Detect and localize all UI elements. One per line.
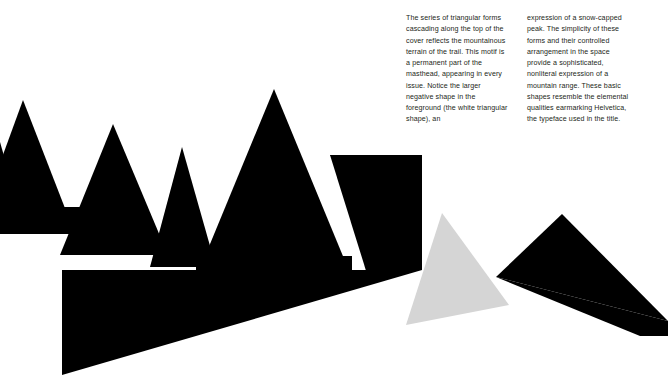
caption-text-right: expression of a snow-capped peak. The si… xyxy=(527,13,631,126)
caption-block: The series of triangular forms cascading… xyxy=(406,13,646,126)
cover-analysis-page: The series of triangular forms cascading… xyxy=(0,0,668,375)
caption-column-left: The series of triangular forms cascading… xyxy=(406,13,510,126)
caption-text-left: The series of triangular forms cascading… xyxy=(406,13,510,126)
caption-column-right: expression of a snow-capped peak. The si… xyxy=(527,13,631,126)
